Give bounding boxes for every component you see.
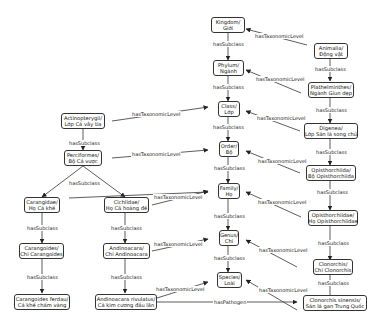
node-platyhelminthes-line2: Ngành Giun dẹp [310, 90, 352, 96]
edge-label-andinoacara-genus: hasTaxonomicLevel [153, 241, 203, 247]
node-family[interactable]: Family/ Họ [218, 183, 240, 199]
edge-label-carangidae-carangoides: hasSubclass [26, 225, 59, 231]
edge-label-has-pathogen: hasPathogen [213, 299, 247, 305]
edge-label-cichlidae-family: hasTaxonomicLevel [153, 194, 203, 200]
edge-label-perciformes-families: hasSubclass [68, 180, 101, 186]
node-phylum-line2: Ngành [220, 68, 237, 74]
edge-label-clonorchis-sinensis: hasSubclass [317, 280, 350, 286]
node-carangoides-ferdau-line2: Cá khế chấm vàng [18, 302, 66, 308]
edge-label-clonorchis-genus: hasTaxonomicLevel [258, 247, 308, 253]
node-carangidae-line2: Họ Cá khế [29, 205, 56, 211]
edge-label-phylum-class: hasSubclass [212, 84, 245, 90]
node-clonorchis-sinensis[interactable]: Clonorchis sinensis/ Sán lá gan Trung Qu… [303, 295, 367, 311]
node-species-line2: Loài [224, 280, 235, 286]
edge-label-platyhelminthes-digenea: hasSubclass [315, 107, 348, 113]
node-andinoacara-line2: Chi Andinoacara [105, 251, 148, 257]
edge-label-opisthorchiidae-clonorchis: hasSubclass [317, 240, 350, 246]
node-opisthorchiida-line2: Bộ Opisthorchiida [308, 173, 354, 179]
edge-label-rivulatus-species: hasTaxonomicLevel [155, 286, 205, 292]
node-cichlidae-line2: Họ Cá hoàng đế [106, 205, 148, 211]
node-class-line2: Lớp [224, 109, 233, 115]
edge-label-animalia-platyhelminthes: hasSubclass [314, 66, 347, 72]
node-carangoides-ferdau[interactable]: Carangoides ferdau/ Cá khế chấm vàng [14, 294, 70, 310]
node-genus[interactable]: Genus/ Chi [219, 230, 239, 246]
edge-label-perciformes-order: hasTaxonomicLevel [131, 151, 181, 157]
node-species[interactable]: Species/ Loài [217, 272, 242, 288]
node-animalia-line2: Động vật [319, 51, 343, 57]
node-kingdom-line2: Giới [223, 25, 233, 31]
node-phylum[interactable]: Phylum/ Ngành [213, 60, 244, 76]
node-digenea-line2: Lớp Sán lá song chủ [305, 131, 357, 137]
edge-label-cichlidae-andinoacara: hasSubclass [110, 225, 143, 231]
node-animalia[interactable]: Animalia/ Động vật [314, 43, 348, 59]
edge-label-genus-species: hasSubclass [213, 255, 246, 261]
node-carangoides-line2: Chi Carangoides [20, 251, 63, 257]
node-digenea[interactable]: Digenea/ Lớp Sán lá song chủ [304, 123, 358, 139]
node-actinopterygii-line2: Lớp Cá vây tia [64, 121, 101, 127]
node-clonorchis-line2: Chi Clonorchis [315, 267, 352, 273]
node-genus-line2: Chi [225, 238, 233, 244]
node-clonorchis[interactable]: Clonorchis/ Chi Clonorchis [313, 259, 353, 275]
node-kingdom[interactable]: Kingdom/ Giới [211, 17, 245, 33]
node-family-line2: Họ [225, 191, 232, 197]
node-andinoacara-rivulatus-line2: Cá kim cương đầu lân [98, 302, 154, 308]
edge-label-opisthorchiidae-family: hasTaxonomicLevel [257, 199, 307, 205]
edge-label-opisthorchiida-opisthorchiidae: hasSubclass [316, 189, 349, 195]
node-carangoides[interactable]: Carangoides/ Chi Carangoides [19, 243, 64, 259]
edge-label-family-genus: hasSubclass [213, 213, 246, 219]
node-clonorchis-sinensis-line2: Sán lá gan Trung Quốc [306, 303, 365, 309]
edge-label-andinoacara-rivulatus: hasSubclass [110, 274, 143, 280]
edge-label-actinopterygii-perciformes: hasSubclass [68, 140, 101, 146]
edge-label-opisthorchiida-order: hasTaxonomicLevel [257, 158, 307, 164]
edge-label-class-order: hasSubclass [212, 124, 245, 130]
node-andinoacara[interactable]: Andinoacara/ Chi Andinoacara [103, 243, 150, 259]
node-carangidae[interactable]: Carangidae/ Họ Cá khế [24, 197, 60, 213]
edge-label-kingdom-phylum: hasSubclass [212, 41, 245, 47]
edge-label-actinopterygii-class: hasTaxonomicLevel [131, 111, 181, 117]
edge-label-carangoides-ferdau: hasSubclass [26, 274, 59, 280]
node-opisthorchiidae[interactable]: Opisthorchiidae/ Họ Opisthorchiidae [308, 210, 358, 226]
node-andinoacara-rivulatus[interactable]: Andinoacara rivulatus/ Cá kim cương đầu … [95, 294, 157, 310]
ontology-diagram: Kingdom/ Giới Phylum/ Ngành Class/ Lớp O… [0, 0, 378, 328]
node-order[interactable]: Order/ Bộ [219, 141, 239, 157]
node-class[interactable]: Class/ Lớp [218, 101, 240, 117]
edge-label-digenea-class: hasTaxonomicLevel [256, 115, 306, 121]
node-cichlidae[interactable]: Cichlidae/ Họ Cá hoàng đế [104, 197, 149, 213]
edge-label-order-family: hasSubclass [213, 165, 246, 171]
node-perciformes-line2: Bộ Cá vược [68, 158, 97, 164]
edge-label-animalia-kingdom: hasTaxonomicLevel [254, 33, 304, 39]
node-platyhelminthes[interactable]: Plathelminthes/ Ngành Giun dẹp [308, 82, 354, 98]
edge-label-digenea-opisthorchiida: hasSubclass [315, 149, 348, 155]
edge-label-platyhelminthes-phylum: hasTaxonomicLevel [255, 76, 305, 82]
node-actinopterygii[interactable]: Actinopterygii/ Lớp Cá vây tia [61, 113, 105, 129]
node-opisthorchiidae-line2: Họ Opisthorchiidae [308, 218, 357, 224]
edge-label-sinensis-species: hasTaxonomicLevel [258, 287, 308, 293]
node-opisthorchiida[interactable]: Opisthorchiida/ Bộ Opisthorchiida [306, 165, 356, 181]
node-perciformes[interactable]: Perciformes/ Bộ Cá vược [64, 150, 102, 166]
node-order-line2: Bộ [226, 149, 233, 155]
